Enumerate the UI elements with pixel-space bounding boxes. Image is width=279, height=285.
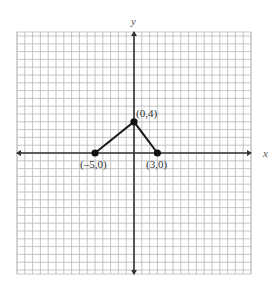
- data-point: [154, 149, 161, 156]
- y-axis-label: y: [130, 15, 136, 27]
- point-label-0-4: (0,4): [136, 107, 157, 120]
- data-point: [130, 118, 137, 125]
- x-axis-label: x: [262, 147, 268, 159]
- coordinate-plane: x y (–5,0) (0,4) (3,0): [0, 0, 279, 285]
- point-label-3-0: (3,0): [146, 158, 167, 171]
- data-point: [91, 149, 98, 156]
- point-label-neg5-0: (–5,0): [80, 158, 107, 171]
